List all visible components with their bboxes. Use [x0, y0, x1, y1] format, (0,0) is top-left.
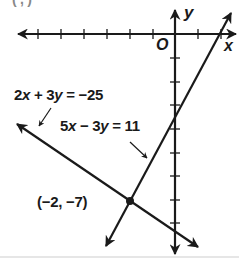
- eq2-mid: + 3: [30, 86, 54, 103]
- eq2-rhs: = −25: [62, 86, 103, 103]
- eq1-coef: 5: [60, 117, 68, 134]
- y-axis-label: y: [184, 3, 193, 23]
- equation-label-5x-3y: 5x − 3y = 11: [60, 117, 140, 134]
- intersection-label: (−2, −7): [37, 193, 87, 210]
- eq2-pointer-arrow: [39, 108, 51, 126]
- x-axis-label: x: [224, 37, 233, 55]
- eq1-pointer-arrow: [130, 142, 147, 158]
- cropped-top-text: ( , ): [12, 0, 32, 7]
- equation-label-2x-3y: 2x + 3y = −25: [14, 86, 103, 103]
- eq2-coef: 2: [14, 86, 22, 103]
- origin-label: O: [156, 36, 168, 54]
- bottom-divider: [0, 256, 239, 258]
- eq1-mid: − 3: [76, 117, 100, 134]
- eq2-var-x: x: [22, 86, 30, 103]
- line-2x-3y-neg25: [17, 124, 198, 247]
- eq1-rhs: = 11: [108, 117, 139, 134]
- eq1-var-x: x: [68, 117, 76, 134]
- intersection-point: [126, 197, 134, 205]
